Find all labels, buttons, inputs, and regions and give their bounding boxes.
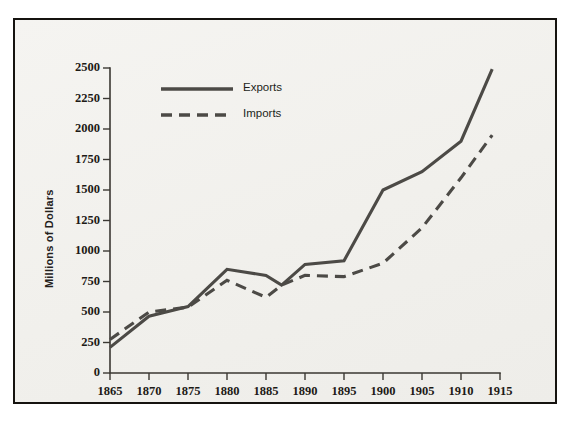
legend-swatches	[161, 89, 233, 115]
y-tick-label: 750	[54, 274, 100, 289]
chart-plot-area: Millions of Dollars 02505007501000125015…	[13, 18, 557, 404]
series-line-exports	[110, 69, 492, 347]
y-tick-label: 500	[54, 304, 100, 319]
legend-label-exports: Exports	[243, 81, 282, 93]
y-tick-label: 250	[54, 335, 100, 350]
y-tick-label: 2250	[54, 91, 100, 106]
y-tick-label: 0	[54, 365, 100, 380]
x-tick-label: 1915	[470, 384, 530, 399]
y-tick-label: 1250	[54, 213, 100, 228]
legend-label-imports: Imports	[243, 107, 281, 119]
y-axis-ticks	[103, 68, 110, 373]
data-series-layer	[110, 69, 492, 347]
x-axis-ticks	[110, 373, 500, 380]
y-tick-label: 1000	[54, 243, 100, 258]
y-tick-label: 2000	[54, 121, 100, 136]
y-tick-label: 1500	[54, 182, 100, 197]
y-tick-label: 2500	[54, 60, 100, 75]
figure-root: Millions of Dollars 02505007501000125015…	[0, 0, 575, 423]
y-tick-label: 1750	[54, 152, 100, 167]
series-line-imports	[110, 135, 492, 339]
